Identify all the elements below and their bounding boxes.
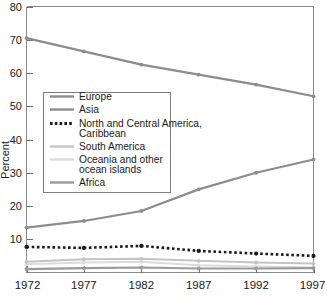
data-point bbox=[197, 267, 201, 271]
data-point bbox=[82, 246, 86, 250]
data-point bbox=[82, 261, 86, 265]
data-point bbox=[139, 63, 143, 67]
data-point bbox=[312, 262, 316, 266]
x-tick-label-1972: 1972 bbox=[15, 279, 41, 291]
x-tick-label-1977: 1977 bbox=[71, 279, 97, 291]
y-tick-label-70: 70 bbox=[10, 34, 22, 46]
chart-canvas: Percent 1020304050607080 197219771982198… bbox=[0, 0, 327, 297]
data-point bbox=[197, 259, 201, 263]
data-point bbox=[197, 187, 201, 191]
legend-label: Caribbean bbox=[79, 128, 126, 139]
y-tick-label-20: 20 bbox=[10, 200, 22, 212]
data-point bbox=[82, 49, 86, 53]
data-point bbox=[82, 266, 86, 270]
data-point bbox=[254, 251, 258, 255]
data-point bbox=[25, 267, 29, 271]
y-tick-label-10: 10 bbox=[10, 233, 22, 245]
data-point bbox=[82, 257, 86, 261]
data-point bbox=[254, 267, 258, 271]
chart-legend: EuropeAsiaNorth and Central America,Cari… bbox=[44, 91, 202, 193]
data-point bbox=[139, 244, 143, 248]
data-point bbox=[82, 219, 86, 223]
data-point bbox=[197, 249, 201, 253]
data-point bbox=[24, 245, 28, 249]
data-point bbox=[25, 226, 29, 230]
series-line bbox=[27, 38, 314, 96]
y-tick-label-50: 50 bbox=[10, 100, 22, 112]
x-tick-label-1997: 1997 bbox=[300, 279, 326, 291]
data-point bbox=[139, 209, 143, 213]
data-point bbox=[197, 73, 201, 77]
data-point bbox=[312, 94, 316, 98]
x-axis-tick-labels: 197219771982198719921997 bbox=[15, 279, 326, 291]
data-point bbox=[197, 263, 201, 267]
x-tick-label-1992: 1992 bbox=[243, 279, 269, 291]
data-point bbox=[254, 83, 258, 87]
data-point bbox=[25, 36, 29, 40]
legend-label: ocean islands bbox=[79, 164, 141, 175]
y-axis-tick-labels: 1020304050607080 bbox=[10, 1, 22, 246]
y-tick-label-80: 80 bbox=[10, 1, 22, 13]
legend-label: Europe bbox=[79, 91, 112, 102]
series-north-and-central-america-caribbean bbox=[24, 244, 315, 258]
y-tick-label-60: 60 bbox=[10, 67, 22, 79]
y-axis-ticks bbox=[27, 8, 34, 240]
legend-label: Africa bbox=[79, 177, 105, 188]
series-line bbox=[27, 246, 314, 256]
series-line bbox=[27, 268, 314, 270]
data-point bbox=[254, 261, 258, 265]
data-point bbox=[311, 254, 315, 258]
y-tick-label-40: 40 bbox=[10, 134, 22, 146]
legend-label: Asia bbox=[79, 104, 99, 115]
x-tick-label-1982: 1982 bbox=[129, 279, 155, 291]
data-point bbox=[139, 266, 143, 270]
data-point bbox=[312, 158, 316, 162]
data-point bbox=[139, 257, 143, 261]
y-tick-label-30: 30 bbox=[10, 167, 22, 179]
x-tick-label-1987: 1987 bbox=[186, 279, 212, 291]
data-point bbox=[25, 260, 29, 264]
series-europe bbox=[25, 36, 316, 98]
data-point bbox=[254, 171, 258, 175]
line-chart: Percent 1020304050607080 197219771982198… bbox=[0, 0, 327, 297]
data-point bbox=[312, 266, 316, 270]
legend-label: South America bbox=[79, 141, 146, 152]
